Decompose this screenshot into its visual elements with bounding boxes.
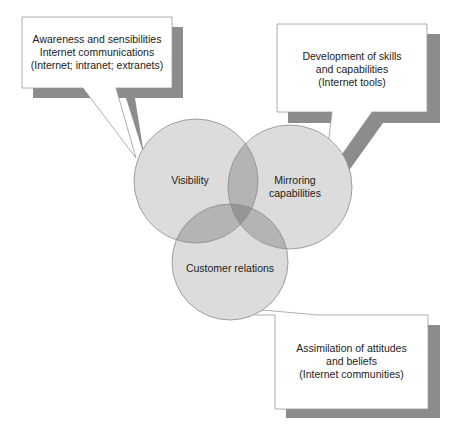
callout-development-line1: Development of skills <box>277 50 427 63</box>
callout-awareness-line1: Awareness and sensibilities <box>22 33 172 46</box>
callout-awareness-line3: (Internet; intranet; extranets) <box>22 59 172 72</box>
callout-awareness-text: Awareness and sensibilities Internet com… <box>22 33 172 72</box>
circle-label-customer: Customer relations <box>170 262 290 275</box>
callout-assimilation-line2: and beliefs <box>275 355 428 368</box>
callout-development-text: Development of skills and capabilities (… <box>277 50 427 89</box>
callout-development-line3: (Internet tools) <box>277 76 427 89</box>
callout-assimilation-line1: Assimilation of attitudes <box>275 342 428 355</box>
callout-development-line2: and capabilities <box>277 63 427 76</box>
callout-assimilation-line3: (Internet communities) <box>275 368 428 381</box>
callout-assimilation-text: Assimilation of attitudes and beliefs (I… <box>275 342 428 381</box>
venn-circles <box>134 119 352 320</box>
circle-label-visibility: Visibility <box>150 174 230 187</box>
callout-awareness-line2: Internet communications <box>22 46 172 59</box>
circle-label-mirroring-line1: Mirroring <box>255 174 335 187</box>
circle-label-mirroring-line2: capabilities <box>255 187 335 200</box>
circle-label-mirroring: Mirroring capabilities <box>255 174 335 200</box>
